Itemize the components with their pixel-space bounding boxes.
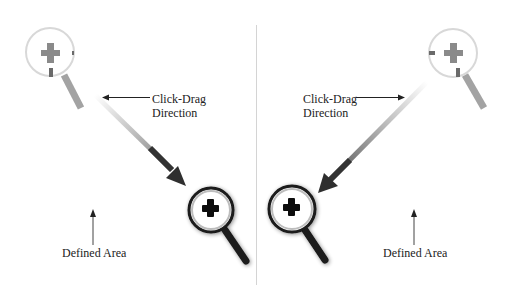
right-drag-label-line2: Direction xyxy=(303,106,348,120)
defined-area-pointer xyxy=(90,209,96,245)
left-panel xyxy=(26,28,246,261)
left-drag-label-line1: Click-Drag xyxy=(152,92,206,106)
zoom-in-start-icon xyxy=(26,28,81,108)
drag-label-pointer xyxy=(356,95,405,101)
right-defined-area-label: Defined Area xyxy=(383,246,447,260)
left-drag-label-line2: Direction xyxy=(152,106,197,120)
defined-area-pointer xyxy=(411,209,417,245)
zoom-in-end-icon xyxy=(269,186,325,260)
zoom-in-start-icon xyxy=(429,29,484,108)
drag-label-pointer xyxy=(102,95,150,101)
right-panel xyxy=(269,29,484,260)
left-defined-area-label: Defined Area xyxy=(62,246,126,260)
right-drag-label-line1: Click-Drag xyxy=(303,92,357,106)
zoom-in-end-icon xyxy=(189,188,246,261)
